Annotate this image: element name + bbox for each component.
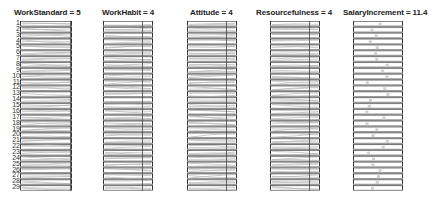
panel-work-habit-plot <box>103 21 153 191</box>
panel-attitude-plot <box>187 21 237 191</box>
row-label: 29 <box>12 184 20 190</box>
title-work-standard: WorkStandard = 5 <box>14 8 81 17</box>
panel-work-standard-plot <box>20 21 72 191</box>
panel-resourcefulness-plot <box>270 21 320 191</box>
title-salary-increment: SalaryIncrement = 11.4 <box>343 8 427 17</box>
panel-resourcefulness <box>270 21 320 191</box>
panel-attitude <box>187 21 237 191</box>
title-resourcefulness: Resourcefulness = 4 <box>256 8 332 17</box>
panel-work-habit <box>103 21 153 191</box>
panel-work-standard <box>20 21 72 191</box>
title-work-habit: WorkHabit = 4 <box>102 8 154 17</box>
title-attitude: Attitude = 4 <box>190 8 233 17</box>
panel-salary-increment-plot <box>353 21 403 191</box>
panel-salary-increment <box>353 21 403 191</box>
